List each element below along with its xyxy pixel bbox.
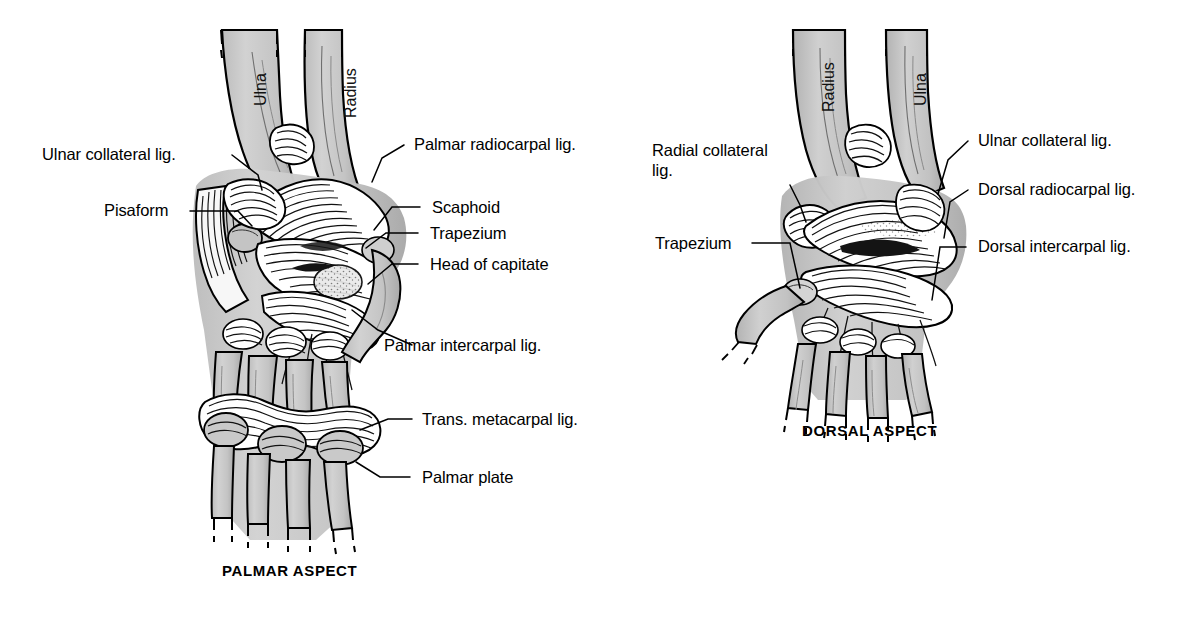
label-radial-collateral-lig: Radial collateral lig.: [652, 140, 792, 180]
label-palmar-intercarpal-lig: Palmar intercarpal lig.: [384, 335, 541, 355]
label-palmar-plate: Palmar plate: [422, 467, 513, 487]
leader-palmar-radiocarpal-lig: [372, 145, 404, 182]
illustration-svg: [0, 0, 1194, 624]
palmar-illustration: [193, 30, 407, 554]
palmar-distal-radioulnar-capsule: [270, 125, 314, 165]
dorsal-radioulnar-capsule: [845, 125, 891, 167]
ulna-label-dorsal: Ulna: [912, 73, 930, 106]
label-trapezium-dorsal: Trapezium: [655, 233, 731, 253]
caption-dorsal-aspect: DORSAL ASPECT: [802, 422, 937, 439]
label-trapezium-palmar: Trapezium: [430, 223, 506, 243]
ulna-label-palmar: Ulna: [252, 73, 270, 106]
radius-label-palmar: Radius: [342, 68, 360, 118]
label-dorsal-radiocarpal-lig: Dorsal radiocarpal lig.: [978, 179, 1135, 199]
dorsal-thumb-column: [722, 286, 804, 364]
label-scaphoid: Scaphoid: [432, 197, 500, 217]
label-ulnar-collateral-lig-dorsal: Ulnar collateral lig.: [978, 130, 1112, 150]
label-head-of-capitate: Head of capitate: [430, 254, 549, 274]
label-palmar-radiocarpal-lig: Palmar radiocarpal lig.: [414, 134, 576, 154]
label-ulnar-collateral-lig-palmar: Ulnar collateral lig.: [42, 144, 176, 164]
label-trans-metacarpal-lig: Trans. metacarpal lig.: [422, 409, 578, 429]
leader-palmar-plate: [356, 462, 410, 477]
caption-palmar-aspect: PALMAR ASPECT: [222, 562, 357, 579]
anatomy-figure: Ulnar collateral lig. Pisaform Palmar ra…: [0, 0, 1194, 624]
radius-label-dorsal: Radius: [820, 62, 838, 112]
label-dorsal-intercarpal-lig: Dorsal intercarpal lig.: [978, 236, 1131, 256]
label-pisiform: Pisaform: [104, 200, 168, 220]
